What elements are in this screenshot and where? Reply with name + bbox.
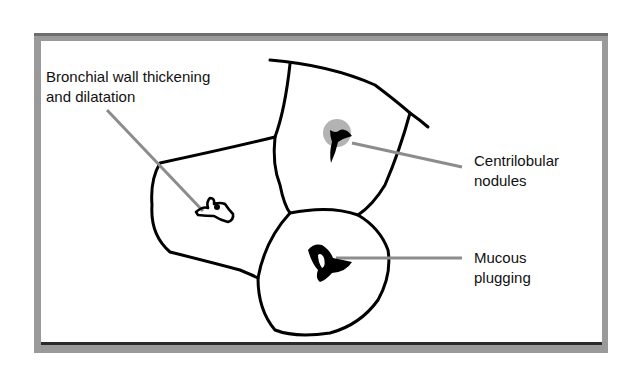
label-centrilobular-nodules: Centrilobular nodules — [474, 151, 559, 191]
leader-line-bronchial — [107, 110, 203, 211]
label-centrilobular-line2: nodules — [474, 171, 559, 191]
label-mucous-plugging: Mucous plugging — [474, 248, 531, 288]
label-bronchial-line1: Bronchial wall thickening — [46, 67, 210, 87]
lobule-outline-left — [152, 137, 275, 278]
leader-line-centrilobular — [352, 143, 462, 167]
label-mucous-line1: Mucous — [474, 248, 531, 268]
lobule-outline-upper — [270, 60, 428, 127]
label-centrilobular-line1: Centrilobular — [474, 151, 559, 171]
label-bronchial-line2: and dilatation — [46, 87, 210, 107]
label-mucous-line2: plugging — [474, 268, 531, 288]
centrilobular-nodule-icon — [323, 119, 352, 163]
label-bronchial-wall: Bronchial wall thickening and dilatation — [46, 67, 210, 107]
mucous-plug-icon — [308, 245, 352, 282]
